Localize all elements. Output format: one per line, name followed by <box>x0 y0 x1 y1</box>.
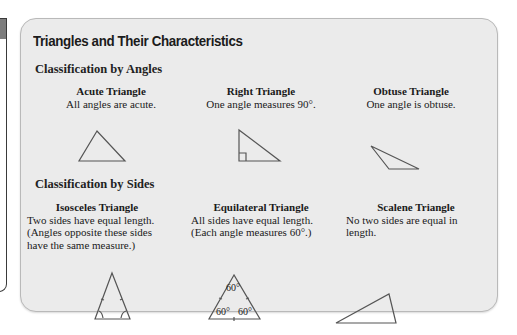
box-title: Triangles and Their Characteristics <box>33 33 243 49</box>
side-panel-header <box>0 19 6 39</box>
item-desc: All sides have equal length. (Each angle… <box>191 214 331 239</box>
scalene-triangle-icon <box>334 292 404 326</box>
obtuse-triangle-icon <box>369 144 429 174</box>
item-name: Acute Triangle <box>51 85 171 98</box>
info-box: Triangles and Their Characteristics Clas… <box>20 18 498 312</box>
equilateral-triangle-item: Equilateral Triangle All sides have equa… <box>191 201 331 239</box>
side-panel <box>0 18 7 292</box>
section-heading-sides: Classification by Sides <box>35 177 154 192</box>
item-desc: One angle measures 90°. <box>196 98 326 111</box>
scalene-triangle-item: Scalene Triangle No two sides are equal … <box>346 201 486 239</box>
item-name: Right Triangle <box>196 85 326 98</box>
item-name: Equilateral Triangle <box>191 201 331 214</box>
angle-label-left: 60° <box>216 306 230 317</box>
equilateral-triangle-icon: 60° 60° 60° <box>207 273 267 323</box>
item-name: Scalene Triangle <box>346 201 486 214</box>
obtuse-triangle-item: Obtuse Triangle One angle is obtuse. <box>351 85 471 110</box>
section-heading-angles: Classification by Angles <box>35 62 162 77</box>
isosceles-triangle-icon <box>93 271 133 321</box>
right-triangle-icon <box>237 128 287 164</box>
item-desc: All angles are acute. <box>51 98 171 111</box>
item-name: Obtuse Triangle <box>351 85 471 98</box>
right-triangle-item: Right Triangle One angle measures 90°. <box>196 85 326 110</box>
angle-label-right: 60° <box>238 306 252 317</box>
isosceles-triangle-item: Isosceles Triangle Two sides have equal … <box>27 201 167 251</box>
item-name: Isosceles Triangle <box>27 201 167 214</box>
acute-triangle-item: Acute Triangle All angles are acute. <box>51 85 171 110</box>
item-desc: Two sides have equal length. (Angles opp… <box>27 214 167 252</box>
acute-triangle-icon <box>77 129 137 164</box>
item-desc: One angle is obtuse. <box>351 98 471 111</box>
angle-label-top: 60° <box>226 282 240 293</box>
item-desc: No two sides are equal in length. <box>346 214 486 239</box>
